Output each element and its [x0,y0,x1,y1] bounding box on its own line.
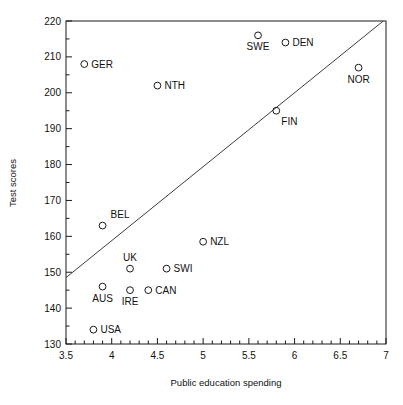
data-point-den: DEN [282,37,314,48]
data-points-layer: GERUSAAUSBELUKIRECANNTHSWINZLSWEFINDENNO… [81,32,370,335]
y-axis-title: Test scores [7,159,18,207]
x-axis-title: Public education spending [171,377,282,388]
y-tick-label: 170 [44,195,61,206]
point-label: NTH [164,80,185,91]
x-tick-label: 4.5 [150,350,164,361]
point-marker [81,61,88,68]
y-tick-label: 160 [44,231,61,242]
point-label: UK [123,252,137,263]
data-point-bel: BEL [99,209,130,229]
data-point-nor: NOR [347,64,369,84]
y-tick-label: 200 [44,87,61,98]
x-tick-label: 6.5 [333,350,347,361]
point-marker [355,64,362,71]
major-tick-marks [66,21,386,344]
y-tick-label: 140 [44,303,61,314]
point-label: AUS [92,293,113,304]
point-marker [90,326,97,333]
data-point-uk: UK [123,252,137,272]
data-point-fin: FIN [273,107,298,126]
data-point-swe: SWE [247,32,270,52]
y-tick-label: 150 [44,267,61,278]
x-tick-label: 4 [109,350,115,361]
x-tick-label: 6 [292,350,298,361]
point-marker [273,107,280,114]
point-label: NZL [210,236,229,247]
data-point-usa: USA [90,324,121,335]
point-marker [282,39,289,46]
x-tick-label: 3.5 [59,350,73,361]
y-tick-label: 130 [44,339,61,350]
point-marker [99,222,106,229]
point-label: BEL [111,209,130,220]
point-marker [154,82,161,89]
point-marker [145,287,152,294]
y-tick-label: 220 [44,16,61,27]
point-label: NOR [347,74,369,85]
data-point-nzl: NZL [200,236,230,247]
scatter-chart: 1301401501601701801902002102203.544.555.… [0,0,403,405]
plot-frame [66,21,386,344]
data-point-swi: SWI [163,263,192,274]
point-label: SWI [174,263,193,274]
x-tick-label: 7 [383,350,389,361]
point-label: CAN [155,285,176,296]
point-marker [255,32,262,39]
point-marker [163,265,170,272]
data-point-aus: AUS [92,283,113,303]
y-tick-label: 210 [44,51,61,62]
point-marker [200,238,207,245]
y-tick-label: 190 [44,123,61,134]
point-label: IRE [122,296,139,307]
plot-canvas: 1301401501601701801902002102203.544.555.… [0,0,403,405]
point-marker [99,283,106,290]
data-point-nth: NTH [154,80,185,91]
point-label: FIN [281,116,297,127]
x-tick-label: 5.5 [242,350,256,361]
data-point-ger: GER [81,59,113,70]
point-label: DEN [292,37,313,48]
point-label: GER [91,59,113,70]
point-marker [127,287,134,294]
data-point-can: CAN [145,285,177,296]
point-label: USA [100,324,121,335]
data-point-ire: IRE [122,287,139,307]
x-tick-label: 5 [200,350,206,361]
y-tick-label: 180 [44,159,61,170]
point-marker [127,265,134,272]
point-label: SWE [247,41,270,52]
